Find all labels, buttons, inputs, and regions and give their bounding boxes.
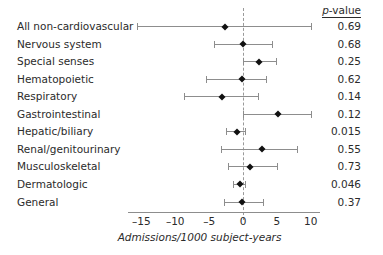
category-label: Nervous system	[17, 38, 102, 50]
category-label: Special senses	[17, 55, 94, 67]
point-estimate-marker	[233, 128, 240, 135]
ci-cap-upper	[276, 58, 277, 65]
ci-cap-lower	[221, 146, 222, 153]
point-estimate-marker	[258, 146, 265, 153]
ci-cap-lower	[243, 58, 244, 65]
point-estimate-marker	[239, 41, 246, 48]
ci-cap-upper	[277, 163, 278, 170]
category-label: All non-cardiovascular	[17, 20, 133, 32]
pvalue-cell: 0.68	[315, 38, 361, 50]
x-axis-line	[128, 212, 320, 213]
x-tick-label: 5	[274, 215, 281, 227]
point-estimate-marker	[255, 58, 262, 65]
x-tick-label: –10	[166, 215, 185, 227]
ci-cap-upper	[258, 93, 259, 100]
x-tick-label: 0	[240, 215, 247, 227]
ci-cap-lower	[233, 181, 234, 188]
ci-cap-upper	[311, 111, 312, 118]
point-estimate-marker	[218, 93, 225, 100]
ci-cap-upper	[263, 199, 264, 206]
x-axis-title: Admissions/1000 subject-years	[0, 231, 383, 243]
forest-plot-figure: p-value –15–10–50510 Admissions/1000 sub…	[0, 0, 383, 255]
pvalue-cell: 0.14	[315, 90, 361, 102]
confidence-interval-line	[206, 79, 266, 80]
point-estimate-marker	[246, 163, 253, 170]
pvalue-cell: 0.37	[315, 196, 361, 208]
category-label: Respiratory	[17, 90, 77, 102]
pvalue-cell: 0.046	[315, 178, 361, 190]
point-estimate-marker	[239, 198, 246, 205]
pvalue-cell: 0.69	[315, 20, 361, 32]
x-tick-label: –15	[132, 215, 151, 227]
ci-cap-lower	[206, 76, 207, 83]
pvalue-cell: 0.62	[315, 73, 361, 85]
ci-cap-lower	[243, 111, 244, 118]
category-label: Renal/genitourinary	[17, 143, 121, 155]
category-label: General	[17, 196, 58, 208]
ci-cap-lower	[224, 199, 225, 206]
point-estimate-marker	[274, 111, 281, 118]
ci-cap-lower	[228, 163, 229, 170]
ci-cap-upper	[245, 128, 246, 135]
category-label: Hepatic/biliary	[17, 125, 93, 137]
pvalue-cell: 0.12	[315, 108, 361, 120]
category-label: Gastrointestinal	[17, 108, 100, 120]
ci-cap-upper	[272, 41, 273, 48]
category-label: Musculoskeletal	[17, 160, 100, 172]
ci-cap-upper	[297, 146, 298, 153]
ci-cap-upper	[266, 76, 267, 83]
ci-cap-lower	[137, 23, 138, 30]
point-estimate-marker	[222, 23, 229, 30]
x-axis-title-text: Admissions/1000 subject-years	[118, 231, 282, 243]
pvalue-cell: 0.55	[315, 143, 361, 155]
x-tick-label: 10	[304, 215, 317, 227]
ci-cap-upper	[245, 181, 246, 188]
ci-cap-upper	[311, 23, 312, 30]
ci-cap-lower	[226, 128, 227, 135]
point-estimate-marker	[238, 76, 245, 83]
category-label: Hematopoietic	[17, 73, 94, 85]
pvalue-cell: 0.015	[315, 125, 361, 137]
pvalue-cell: 0.73	[315, 160, 361, 172]
ci-cap-lower	[214, 41, 215, 48]
x-tick-label: –5	[203, 215, 215, 227]
ci-cap-lower	[184, 93, 185, 100]
pvalue-cell: 0.25	[315, 55, 361, 67]
category-label: Dermatologic	[17, 178, 88, 190]
